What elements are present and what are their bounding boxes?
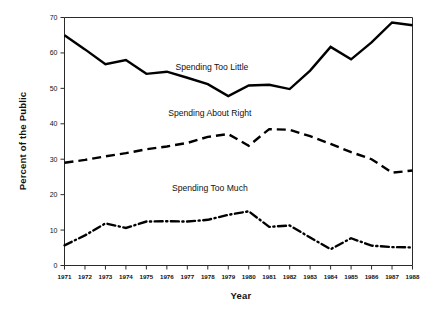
y-tick-label: 50 xyxy=(50,85,58,92)
y-tick-label: 70 xyxy=(50,14,58,21)
x-tick-label: 1981 xyxy=(262,273,276,280)
y-tick-label: 20 xyxy=(50,191,58,198)
series-line-0 xyxy=(65,22,413,96)
series-lines xyxy=(65,22,413,249)
x-tick-label: 1977 xyxy=(180,273,194,280)
x-tick-label: 1979 xyxy=(221,273,235,280)
x-tick-label: 1984 xyxy=(324,273,338,280)
y-tick-label: 60 xyxy=(50,49,58,56)
line-chart: 010203040506070 197119721973197419751976… xyxy=(0,0,434,310)
x-tick-label: 1976 xyxy=(160,273,174,280)
x-axis-title: Year xyxy=(231,290,252,301)
x-tick-label: 1983 xyxy=(303,273,317,280)
y-tick-label: 10 xyxy=(50,227,58,234)
x-tick-label: 1985 xyxy=(344,273,358,280)
x-tick-label: 1980 xyxy=(242,273,256,280)
x-tick-label: 1972 xyxy=(78,273,92,280)
series-annotation-2: Spending Too Much xyxy=(172,183,248,193)
x-tick-label: 1971 xyxy=(58,273,72,280)
x-axis-ticks: 1971197219731974197519761977197819791980… xyxy=(58,266,420,280)
y-tick-label: 30 xyxy=(50,156,58,163)
x-tick-label: 1974 xyxy=(119,273,133,280)
y-axis-title: Percent of the Public xyxy=(17,92,28,191)
series-annotation-1: Spending About Right xyxy=(168,108,252,118)
chart-container: 010203040506070 197119721973197419751976… xyxy=(0,0,434,310)
x-tick-label: 1986 xyxy=(365,273,379,280)
series-line-2 xyxy=(65,211,413,249)
series-annotation-0: Spending Too Little xyxy=(175,62,248,72)
x-tick-label: 1975 xyxy=(139,273,153,280)
plot-frame xyxy=(65,18,413,266)
y-tick-label: 0 xyxy=(54,262,58,269)
x-tick-label: 1988 xyxy=(406,273,420,280)
y-tick-label: 40 xyxy=(50,120,58,127)
x-tick-label: 1982 xyxy=(283,273,297,280)
x-tick-label: 1973 xyxy=(99,273,113,280)
series-line-1 xyxy=(65,129,413,173)
series-annotations: Spending Too LittleSpending About RightS… xyxy=(168,62,252,193)
y-axis-ticks: 010203040506070 xyxy=(50,14,65,269)
x-tick-label: 1987 xyxy=(385,273,399,280)
x-tick-label: 1978 xyxy=(201,273,215,280)
